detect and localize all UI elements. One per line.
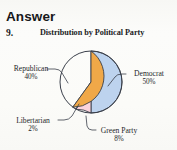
pie-label-libertarian-percent: 2% <box>2 125 64 134</box>
pie-label-republican-percent: 40% <box>4 73 58 82</box>
answer-page: Answer 9. Distribution by Political Part… <box>0 0 177 150</box>
pie-label-green-party-percent: 8% <box>88 135 150 144</box>
pie-label-green-party-name: Green Party <box>101 126 137 135</box>
page-title: Answer <box>6 9 55 24</box>
pie-label-libertarian-name: Libertarian <box>16 116 50 125</box>
problem-number: 9. <box>6 28 13 38</box>
pie-label-democrat-name: Democrat <box>134 69 164 78</box>
pie-label-republican: Republican 40% <box>4 64 58 82</box>
pie-chart: Republican 40% Democrat 50% Libertarian … <box>0 38 177 150</box>
pie-label-democrat: Democrat 50% <box>122 69 176 87</box>
pie-label-republican-name: Republican <box>14 64 49 73</box>
chart-title: Distribution by Political Party <box>40 28 144 37</box>
pie-label-democrat-percent: 50% <box>122 78 176 87</box>
pie-label-libertarian: Libertarian 2% <box>2 116 64 134</box>
pie-label-green-party: Green Party 8% <box>88 126 150 144</box>
